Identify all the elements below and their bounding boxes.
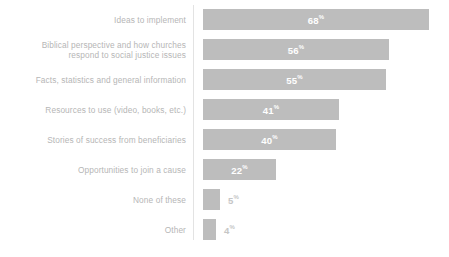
percent-sign: % <box>274 104 279 110</box>
table-row: Stories of success from beneficiaries 40… <box>0 129 449 150</box>
percent-sign: % <box>234 194 239 200</box>
bar-value-label: 55% <box>203 74 386 85</box>
table-row: Biblical perspective and how churches re… <box>0 39 449 60</box>
category-label: Stories of success from beneficiaries <box>6 134 186 145</box>
category-label: Opportunities to join a cause <box>6 164 186 175</box>
category-label: Resources to use (video, books, etc.) <box>6 104 186 115</box>
percent-sign: % <box>319 14 324 20</box>
bar-value-label: 41% <box>203 104 339 115</box>
bar <box>203 219 216 240</box>
table-row: Facts, statistics and general informatio… <box>0 69 449 90</box>
table-row: None of these 5% <box>0 189 449 210</box>
bar-track: 55% <box>203 69 449 90</box>
bar-track: 40% <box>203 129 449 150</box>
bar-value-label: 4% <box>224 224 235 235</box>
bar-track: 4% <box>203 219 449 240</box>
percent-sign: % <box>299 44 304 50</box>
bar-value-label: 22% <box>203 164 276 175</box>
table-row: Resources to use (video, books, etc.) 41… <box>0 99 449 120</box>
table-row: Opportunities to join a cause 22% <box>0 159 449 180</box>
category-label: Ideas to implement <box>6 14 186 25</box>
bar-track: 56% <box>203 39 449 60</box>
bar-track: 41% <box>203 99 449 120</box>
horizontal-bar-chart: Ideas to implement 68% Biblical perspect… <box>0 0 449 257</box>
percent-sign: % <box>242 164 247 170</box>
category-label: None of these <box>6 194 186 205</box>
category-label: Biblical perspective and how churches re… <box>6 39 186 60</box>
percent-sign: % <box>297 74 302 80</box>
percent-sign: % <box>230 224 235 230</box>
bar-value-label: 56% <box>203 44 389 55</box>
bar-track: 22% <box>203 159 449 180</box>
bar <box>203 189 220 210</box>
category-label: Facts, statistics and general informatio… <box>6 74 186 85</box>
percent-sign: % <box>272 134 277 140</box>
bar-track: 5% <box>203 189 449 210</box>
table-row: Other 4% <box>0 219 449 240</box>
table-row: Ideas to implement 68% <box>0 9 449 30</box>
bar-track: 68% <box>203 9 449 30</box>
bar-value-label: 68% <box>203 14 429 25</box>
bar-value-label: 5% <box>228 194 239 205</box>
bar-rows-container: Ideas to implement 68% Biblical perspect… <box>0 9 449 249</box>
bar-value-label: 40% <box>203 134 336 145</box>
category-label: Other <box>6 224 186 235</box>
